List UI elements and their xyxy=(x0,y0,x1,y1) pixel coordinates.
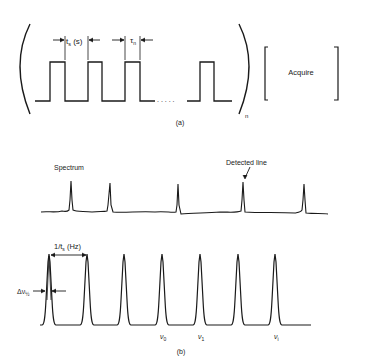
left-parenthesis xyxy=(20,24,30,114)
detected-spectrum-line xyxy=(41,181,328,214)
ts-arrowhead-right xyxy=(89,38,93,42)
spacing-arrowhead-right xyxy=(82,253,86,257)
caption-a: (a) xyxy=(176,119,185,127)
freq-label-nu0: ν0 xyxy=(160,333,167,342)
freq-label-nu1: ν1 xyxy=(198,333,205,342)
detected-line-label: Detected line xyxy=(226,159,267,166)
excitation-profile xyxy=(33,253,311,325)
detected-line-arrowhead xyxy=(243,175,247,179)
excitation-peaks xyxy=(40,254,311,325)
spectrum-label: Spectrum xyxy=(54,164,84,172)
ts-arrowhead-left xyxy=(60,38,64,42)
pulse-waveform xyxy=(35,62,155,101)
acquire-bracket-left xyxy=(265,47,268,100)
spacing-arrowhead-left xyxy=(51,253,55,257)
pulse-waveform-last xyxy=(187,62,232,101)
spacing-label: 1/ts (Hz) xyxy=(54,242,82,252)
caption-b: (b) xyxy=(177,348,186,356)
spectrum-trace xyxy=(41,167,328,214)
width-arrowhead-left xyxy=(41,289,45,293)
freq-label-nui: νi xyxy=(274,333,279,342)
right-parenthesis xyxy=(239,24,249,114)
acquire-label: Acquire xyxy=(288,68,313,77)
acquire-bracket-right xyxy=(334,47,338,100)
ellipsis: . . . . . xyxy=(157,96,175,103)
width-arrowhead-right xyxy=(52,289,56,293)
ts-label: ts (s) xyxy=(66,37,83,47)
repeat-count-subscript: n xyxy=(245,113,248,119)
tau-label: τn xyxy=(130,36,136,46)
tau-arrowhead-right xyxy=(141,38,145,42)
linewidth-label: Δν½ xyxy=(17,288,30,297)
dante-pulse-sequence-diagram: ts (s) τn . . . . . n Acquire (a) Spectr… xyxy=(0,0,371,364)
tau-arrowhead-left xyxy=(120,38,124,42)
